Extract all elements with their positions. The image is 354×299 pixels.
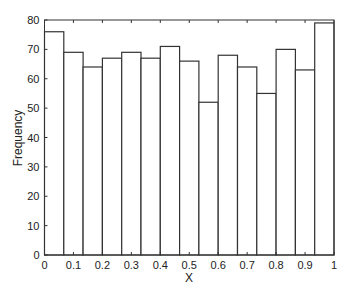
x-axis-label: X (185, 271, 193, 285)
histogram-bar (122, 52, 141, 255)
x-tick-label: 0.3 (124, 259, 139, 271)
histogram-bar (276, 49, 295, 255)
histogram-bar (257, 93, 276, 255)
y-tick-label: 30 (27, 161, 39, 173)
x-tick-label: 0.1 (66, 259, 81, 271)
histogram-chart: 00.10.20.30.40.50.60.70.80.91 0102030405… (0, 0, 354, 299)
histogram-bars (45, 23, 335, 255)
y-tick-label: 0 (33, 249, 39, 261)
x-tick-label: 0.6 (211, 259, 226, 271)
histogram-bar (45, 32, 64, 255)
x-tick-label: 0.2 (95, 259, 110, 271)
x-tick-label: 0.9 (297, 259, 312, 271)
histogram-bar (141, 58, 160, 255)
histogram-bar (199, 102, 218, 255)
histogram-bar (64, 52, 83, 255)
y-tick-label: 20 (27, 190, 39, 202)
y-tick-label: 80 (27, 14, 39, 26)
histogram-bar (315, 23, 334, 255)
x-tick-label: 1 (331, 259, 337, 271)
y-tick-label: 10 (27, 220, 39, 232)
histogram-bar (218, 55, 237, 255)
y-axis-label: Frequency (11, 110, 25, 167)
histogram-bar (160, 46, 179, 255)
x-tick-label: 0.4 (153, 259, 168, 271)
histogram-bar (180, 61, 199, 255)
y-tick-label: 50 (27, 102, 39, 114)
x-tick-label: 0 (41, 259, 47, 271)
x-tick-label: 0.5 (182, 259, 197, 271)
y-tick-label: 70 (27, 43, 39, 55)
histogram-bar (295, 70, 314, 255)
histogram-bar (102, 58, 121, 255)
y-tick-label: 60 (27, 73, 39, 85)
y-tick-label: 40 (27, 132, 39, 144)
histogram-bar (83, 67, 102, 255)
x-tick-label: 0.7 (240, 259, 255, 271)
histogram-bar (238, 67, 257, 255)
x-tick-label: 0.8 (268, 259, 283, 271)
